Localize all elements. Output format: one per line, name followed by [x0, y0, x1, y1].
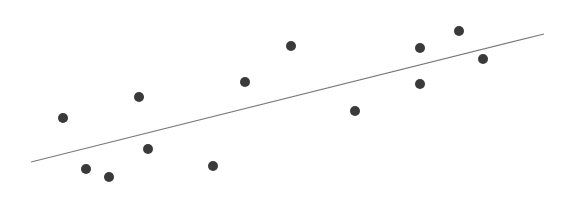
scatter-plot [0, 0, 568, 222]
data-point [415, 79, 425, 89]
data-point [81, 164, 91, 174]
data-point [478, 54, 488, 64]
data-point [454, 26, 464, 36]
data-points [58, 26, 488, 182]
data-point [350, 106, 360, 116]
regression-line [31, 34, 544, 162]
data-point [134, 92, 144, 102]
data-point [58, 113, 68, 123]
data-point [240, 77, 250, 87]
data-point [208, 161, 218, 171]
data-point [415, 43, 425, 53]
data-point [286, 41, 296, 51]
data-point [104, 172, 114, 182]
data-point [143, 144, 153, 154]
